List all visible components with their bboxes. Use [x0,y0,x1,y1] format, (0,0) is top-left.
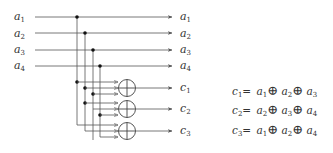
equation-c3: c3= a1⊕ a2⊕ a4 [232,122,318,138]
output-label-a4: a4 [180,59,192,73]
output-label-c2: c2 [180,102,191,116]
output-label-a1: a1 [180,10,191,24]
junction-dot [83,31,87,35]
junction-dot [98,64,102,68]
xor-gate-c3 [119,123,136,140]
tap-lines [77,17,100,140]
xor-gates [119,80,136,140]
equation-c1: c1= a1⊕ a2⊕ a3 [232,83,317,99]
junction-dot [91,48,95,52]
input-labels: a1 a2 a3 a4 [14,10,26,73]
output-labels: a1 a2 a3 a4 c1 c2 c3 [180,10,192,138]
output-label-c3: c3 [180,124,191,138]
input-label-a4: a4 [14,59,26,73]
input-label-a3: a3 [14,43,25,57]
output-label-a3: a3 [180,43,191,57]
output-label-c1: c1 [180,81,191,95]
xor-gate-c2 [119,101,136,118]
equations: c1= a1⊕ a2⊕ a3 c2= a2⊕ a3⊕ a4 c3= a1⊕ a2… [232,83,318,138]
gate-output-wires [136,88,173,131]
junction-dot [75,15,79,19]
xor-encoder-diagram: a1 a2 a3 a4 [0,0,333,153]
input-label-a2: a2 [14,27,25,41]
gate-input-wires [77,82,118,137]
input-label-a1: a1 [14,10,25,24]
xor-gate-c1 [119,80,136,97]
output-label-a2: a2 [180,27,191,41]
equation-c2: c2= a2⊕ a3⊕ a4 [232,102,318,118]
pass-through-lines [35,17,172,66]
